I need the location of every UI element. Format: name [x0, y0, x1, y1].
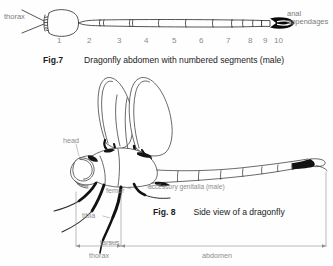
fig7-segment-number-10: 10 [274, 36, 283, 45]
fig7-segment-number-1: 1 [57, 36, 61, 45]
fig7-segment-number-7: 7 [226, 36, 230, 45]
anal-label-line2: appendages [287, 17, 328, 26]
fig7-segment-number-2: 2 [87, 36, 91, 45]
fig8-accessory-genitalia-label: accessory genitalia (male) [148, 183, 225, 190]
fig8-tibia-label: tibia [82, 211, 95, 220]
fig8-femur-label: femur [106, 186, 124, 195]
fig8-caption: Fig. 8Side view of a dragonfly [153, 207, 285, 217]
figure-7-drawing [0, 0, 333, 52]
figure-page: thorax anal appendages 12345678910 Fig.7… [0, 0, 333, 266]
fig7-caption-text: Dragonfly abdomen with numbered segments… [84, 55, 284, 65]
fig7-segment-number-8: 8 [248, 36, 252, 45]
fig7-segment-number-4: 4 [144, 36, 148, 45]
fig7-segment-number-9: 9 [263, 36, 267, 45]
fig7-segment-number-3: 3 [117, 36, 121, 45]
fig8-thorax-label: thorax [89, 251, 109, 260]
fig7-segment-number-6: 6 [199, 36, 203, 45]
fig7-caption: Fig.7Dragonfly abdomen with numbered seg… [43, 55, 284, 65]
fig7-anal-appendages-label: anal appendages [287, 10, 328, 26]
fig8-caption-text: Side view of a dragonfly [193, 207, 284, 217]
fig8-tarsus-label: tarsus [100, 238, 120, 247]
fig7-caption-number: Fig.7 [43, 55, 63, 65]
fig7-segment-number-5: 5 [172, 36, 176, 45]
figure-8-drawing [0, 70, 333, 266]
fig8-caption-number: Fig. 8 [153, 207, 175, 217]
fig8-abdomen-label: abdomen [202, 251, 232, 260]
figure-7: thorax anal appendages 12345678910 Fig.7… [0, 0, 333, 70]
fig7-thorax-label: thorax [4, 12, 25, 21]
fig8-head-label: head [63, 136, 79, 145]
figure-8: head femur tibia tarsus accessory genita… [0, 70, 333, 266]
